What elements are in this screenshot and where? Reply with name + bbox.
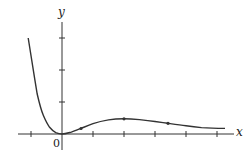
function-curve <box>28 38 225 134</box>
inflection-point-2 <box>166 122 169 125</box>
x-axis-label: x <box>236 126 243 138</box>
inflection-point-1 <box>79 127 82 130</box>
plot-area <box>0 0 252 159</box>
y-axis-label: y <box>58 6 65 18</box>
origin-label: 0 <box>53 138 60 149</box>
maximum-point <box>122 117 125 120</box>
